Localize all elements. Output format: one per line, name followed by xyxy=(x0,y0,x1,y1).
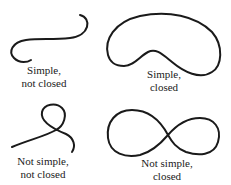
label-line-2: not closed xyxy=(14,77,74,90)
label-line-1: Simple, xyxy=(14,64,74,77)
curve-not-simple-not-closed xyxy=(12,105,74,152)
label-line-2: closed xyxy=(136,81,192,94)
label-line-1: Not simple, xyxy=(8,155,78,168)
label-simple-closed: Simple, closed xyxy=(136,68,192,94)
curve-simple-closed xyxy=(107,14,220,76)
label-not-simple-closed: Not simple, closed xyxy=(130,157,204,183)
label-line-1: Simple, xyxy=(136,68,192,81)
label-simple-not-closed: Simple, not closed xyxy=(14,64,74,90)
label-line-2: not closed xyxy=(8,168,78,181)
curve-simple-not-closed xyxy=(11,15,87,62)
label-line-1: Not simple, xyxy=(130,157,204,170)
curve-not-simple-closed xyxy=(108,110,219,156)
label-not-simple-not-closed: Not simple, not closed xyxy=(8,155,78,181)
label-line-2: closed xyxy=(130,170,204,183)
